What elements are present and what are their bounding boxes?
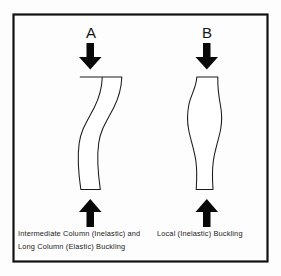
panel-a-caption-line2: Long Column (Elastic) Buckling bbox=[18, 242, 125, 251]
panel-a-caption-line1: Intermediate Column (Inelastic) and bbox=[18, 229, 140, 238]
figure-container: A bbox=[0, 0, 281, 276]
buckling-diagram: A bbox=[0, 0, 281, 276]
panel-b-caption-line1: Local (Inelastic) Buckling bbox=[157, 229, 243, 238]
panel-b-label: B bbox=[202, 24, 212, 41]
panel-a-label: A bbox=[86, 24, 96, 41]
figure-frame bbox=[14, 15, 268, 262]
